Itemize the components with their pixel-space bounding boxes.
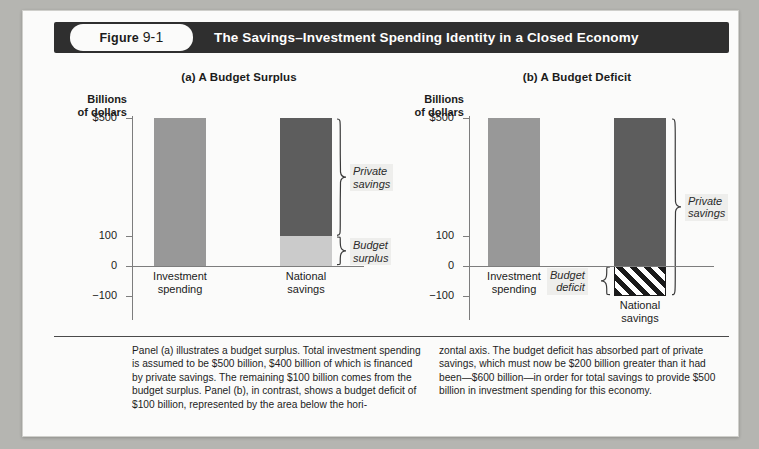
y-tick-label-0: 0	[448, 259, 454, 271]
brace-budget-surplus-a	[336, 236, 347, 266]
bar-segment-budget-deficit	[614, 266, 666, 296]
annotation-line2: savings	[353, 178, 390, 191]
y-tick-100: 100	[463, 236, 470, 237]
plot-area-b: $5001000−100InvestmentspendingNationalsa…	[469, 118, 714, 320]
annotation-line1: Private	[353, 165, 390, 178]
figure-root: Figure 9-1 The Savings–Investment Spendi…	[0, 0, 759, 449]
panel-b: (b) A Budget DeficitBillionsof dollars$5…	[400, 66, 732, 324]
caption-left: Panel (a) illustrates a budget surplus. …	[132, 344, 424, 411]
y-axis-unit-line1: Billions	[386, 93, 464, 106]
caption-right: zontal axis. The budget deficit has abso…	[439, 344, 731, 398]
x-axis-label-line2: savings	[586, 312, 694, 325]
zero-axis-line	[469, 266, 714, 267]
y-tick-label-0: 0	[111, 259, 117, 271]
y-tick-label-500: $500	[93, 111, 117, 123]
x-axis-label-line1: National	[252, 270, 360, 283]
y-tick-label--100: −100	[429, 289, 454, 301]
brace-budget-deficit-b	[600, 266, 611, 296]
y-tick-500: $500	[126, 118, 133, 119]
figure-word: Figure	[100, 31, 139, 45]
bar-b-1	[614, 118, 666, 320]
y-tick-label--100: −100	[92, 289, 117, 301]
bar-segment-private-savings	[280, 118, 332, 236]
zero-axis-line	[132, 266, 364, 267]
y-axis-unit-line1: Billions	[49, 93, 127, 106]
annotation-line1: Budget	[353, 239, 388, 252]
annotation-budget-deficit-b: Budgetdeficit	[547, 268, 588, 295]
annotation-line2: surplus	[353, 252, 388, 265]
x-axis-label-line2: spending	[126, 283, 234, 296]
annotation-private-savings-b: Privatesavings	[685, 194, 728, 221]
x-axis-label-line1: Investment	[126, 270, 234, 283]
panel-title-b: (b) A Budget Deficit	[400, 71, 732, 83]
figure-header: Figure 9-1 The Savings–Investment Spendi…	[54, 22, 729, 53]
annotation-line1: Budget	[550, 269, 585, 282]
bar-segment-investment-spending	[488, 118, 540, 266]
panel-a: (a) A Budget SurplusBillionsof dollars$5…	[54, 66, 394, 324]
y-tick-100: 100	[126, 236, 133, 237]
figure-number: 9-1	[143, 29, 164, 45]
bar-segment-investment-spending	[154, 118, 206, 266]
x-axis-label-b-1: Nationalsavings	[586, 299, 694, 325]
caption-divider	[54, 336, 729, 337]
annotation-budget-surplus-a: Budgetsurplus	[350, 238, 391, 265]
figure-card: Figure 9-1 The Savings–Investment Spendi…	[22, 10, 739, 437]
bar-segment-budget-surplus	[280, 236, 332, 266]
y-tick-500: $500	[463, 118, 470, 119]
plot-area-a: $5001000−100InvestmentspendingNationalsa…	[132, 118, 364, 320]
y-tick-label-500: $500	[430, 111, 454, 123]
annotation-line2: savings	[688, 207, 725, 220]
brace-private-savings-b	[671, 118, 682, 296]
annotation-private-savings-a: Privatesavings	[350, 164, 393, 191]
y-tick-label-100: 100	[99, 229, 117, 241]
x-axis-label-a-0: Investmentspending	[126, 270, 234, 296]
panel-title-a: (a) A Budget Surplus	[54, 71, 394, 83]
x-axis-label-line2: savings	[252, 283, 360, 296]
x-axis-label-line1: National	[586, 299, 694, 312]
y-tick-label-100: 100	[436, 229, 454, 241]
bar-segment-private-savings	[614, 118, 666, 266]
figure-title: The Savings–Investment Spending Identity…	[214, 22, 639, 53]
annotation-line1: Private	[688, 195, 725, 208]
figure-number-badge: Figure 9-1	[70, 24, 193, 51]
brace-private-savings-a	[336, 118, 347, 236]
x-axis-label-a-1: Nationalsavings	[252, 270, 360, 296]
annotation-line2: deficit	[550, 281, 585, 294]
